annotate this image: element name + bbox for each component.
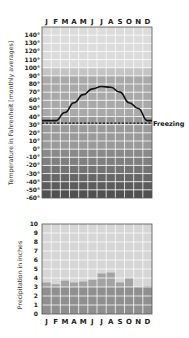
temperature-tick: 70° [29,88,40,95]
month-label: M [61,318,68,326]
temperature-tick: 40° [29,113,40,120]
temperature-tick: 90° [29,72,40,79]
month-label: J [44,318,48,326]
precipitation-tick: 0 [34,310,38,317]
precipitation-panel [42,224,152,314]
precipitation-tick: 2 [34,292,38,299]
month-label: S [117,318,122,326]
month-label: J [99,18,103,26]
precipitation-tick: 10 [30,220,38,227]
temperature-tick: -40° [26,178,40,185]
month-label: J [90,318,94,326]
temperature-tick: 20° [29,129,40,136]
precipitation-tick: 9 [34,229,38,236]
temperature-tick: 10° [29,137,40,144]
precipitation-tick: 3 [34,283,38,290]
temperature-tick: 120° [24,47,40,54]
temperature-tick: 140° [24,31,40,38]
precipitation-tick: 8 [34,238,38,245]
precipitation-tick: 1 [34,301,38,308]
climate-chart: JFMAMJJASOND 140°130°120°110°100°90°80°7… [0,0,189,338]
month-label: M [80,18,87,26]
month-label: A [71,318,77,326]
temperature-tick-labels: 140°130°120°110°100°90°80°70°60°50°40°30… [24,31,40,201]
temperature-tick: -20° [26,161,40,168]
temperature-tick: 80° [29,80,40,87]
temperature-tick: 110° [24,56,40,63]
precipitation-tick: 7 [34,247,38,254]
month-label: O [126,18,132,26]
month-label: J [99,318,103,326]
temperature-tick: -60° [26,194,40,201]
month-label: N [135,318,141,326]
month-label: D [145,318,151,326]
temperature-tick: -10° [26,153,40,160]
month-label: M [80,318,87,326]
temperature-panel [42,27,152,198]
temperature-tick: -30° [26,170,40,177]
precipitation-axis-title: Precipitation in inches [16,241,24,309]
month-label: J [44,18,48,26]
month-label: D [145,18,151,26]
month-label: N [135,18,141,26]
temperature-axis-title: Temperature in Fahrenheit [monthly avera… [7,41,15,186]
temperature-tick: 130° [24,39,40,46]
month-label: J [90,18,94,26]
temperature-tick: 50° [29,104,40,111]
temperature-tick: 100° [24,64,40,71]
bottom-month-labels: JFMAMJJASOND [44,318,150,326]
temperature-tick: 60° [29,96,40,103]
precipitation-tick: 6 [34,256,38,263]
temperature-tick: 0° [33,145,40,152]
month-label: A [108,18,114,26]
precipitation-tick: 5 [34,265,38,272]
month-label: O [126,318,132,326]
precipitation-tick: 4 [34,274,38,281]
temperature-tick: 30° [29,121,40,128]
top-month-labels: JFMAMJJASOND [44,18,150,26]
month-label: S [117,18,122,26]
temperature-tick: -50° [26,186,40,193]
month-label: A [71,18,77,26]
month-label: M [61,18,68,26]
precipitation-tick-labels: 109876543210 [30,220,38,317]
month-label: F [53,18,58,26]
month-label: A [108,318,114,326]
month-label: F [53,318,58,326]
freezing-label: Freezing [153,120,185,128]
